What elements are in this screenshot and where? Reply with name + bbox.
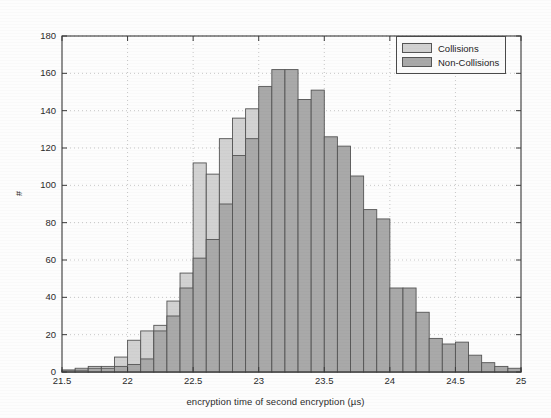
chart-legend: CollisionsNon-Collisions (396, 36, 506, 74)
x-tick-label: 25 (501, 375, 541, 386)
y-tick-label: 120 (28, 142, 56, 153)
x-tick-label: 22.5 (173, 375, 213, 386)
y-tick-label: 60 (28, 254, 56, 265)
y-tick-label: 80 (28, 217, 56, 228)
x-tick-label: 23.5 (304, 375, 344, 386)
x-tick-label: 23 (239, 375, 279, 386)
legend-label: Collisions (438, 43, 479, 54)
legend-swatch (402, 43, 432, 53)
legend-item-collisions: Collisions (402, 41, 499, 55)
y-tick-label: 140 (28, 105, 56, 116)
legend-label: Non-Collisions (438, 57, 499, 68)
x-tick-label: 24 (370, 375, 410, 386)
x-tick-label: 24.5 (435, 375, 475, 386)
legend-swatch (402, 57, 432, 67)
legend-item-non-collisions: Non-Collisions (402, 55, 499, 69)
histogram-figure: # encryption time of second encryption (… (0, 0, 551, 418)
x-axis-label: encryption time of second encryption (µs… (0, 396, 551, 407)
bar-series-non-collisions (62, 70, 521, 372)
x-tick-label: 21.5 (42, 375, 82, 386)
x-tick-label: 22 (108, 375, 148, 386)
y-tick-label: 40 (28, 291, 56, 302)
y-tick-label: 180 (28, 30, 56, 41)
y-axis-label: # (14, 191, 24, 196)
y-tick-label: 20 (28, 329, 56, 340)
y-tick-label: 160 (28, 67, 56, 78)
y-tick-label: 100 (28, 179, 56, 190)
